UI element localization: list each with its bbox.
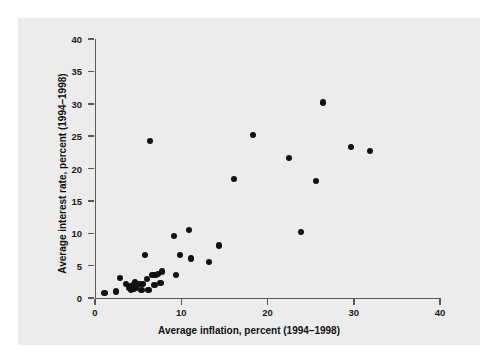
scatter-point [320, 99, 326, 105]
chart-panel-background [18, 18, 480, 345]
x-tick-mark [439, 299, 441, 305]
scatter-point [101, 290, 107, 296]
y-tick-mark [88, 233, 94, 235]
scatter-point [231, 176, 237, 182]
x-tick-mark [181, 299, 183, 305]
x-axis-label: Average inflation, percent (1994–1998) [0, 325, 498, 336]
y-tick-mark [88, 38, 94, 40]
y-tick-label: 20 [71, 163, 82, 174]
y-tick-mark [88, 71, 94, 73]
scatter-point [206, 259, 212, 265]
y-tick-label: 15 [71, 195, 82, 206]
y-tick-label: 10 [71, 228, 82, 239]
y-tick-mark [88, 200, 94, 202]
y-tick-label: 0 [77, 293, 82, 304]
x-tick-label: 40 [435, 307, 446, 318]
scatter-point [157, 280, 163, 286]
scatter-point [313, 178, 319, 184]
x-tick-label: 20 [262, 307, 273, 318]
scatter-chart-figure: Average inflation, percent (1994–1998) A… [0, 0, 498, 360]
x-tick-label: 0 [92, 307, 97, 318]
scatter-point [117, 275, 123, 281]
y-tick-label: 40 [71, 34, 82, 45]
scatter-point [113, 288, 119, 294]
scatter-point [173, 272, 179, 278]
y-tick-label: 35 [71, 66, 82, 77]
y-tick-mark [88, 103, 94, 105]
x-tick-mark [267, 299, 269, 305]
x-tick-label: 10 [176, 307, 187, 318]
y-tick-mark [88, 297, 94, 299]
scatter-point [250, 132, 256, 138]
x-tick-mark [94, 299, 96, 305]
scatter-point [138, 287, 144, 293]
scatter-point [188, 255, 194, 261]
scatter-point [159, 268, 165, 274]
y-tick-label: 5 [77, 260, 82, 271]
scatter-point [145, 287, 151, 293]
y-tick-mark [88, 135, 94, 137]
x-tick-mark [353, 299, 355, 305]
x-tick-label: 30 [348, 307, 359, 318]
scatter-point [147, 138, 153, 144]
y-tick-mark [88, 265, 94, 267]
y-axis-line [95, 39, 97, 298]
scatter-point [216, 242, 222, 248]
y-axis-label: Average interest rate, percent (1994–199… [57, 54, 68, 294]
y-tick-label: 30 [71, 98, 82, 109]
y-tick-mark [88, 168, 94, 170]
y-tick-label: 25 [71, 131, 82, 142]
